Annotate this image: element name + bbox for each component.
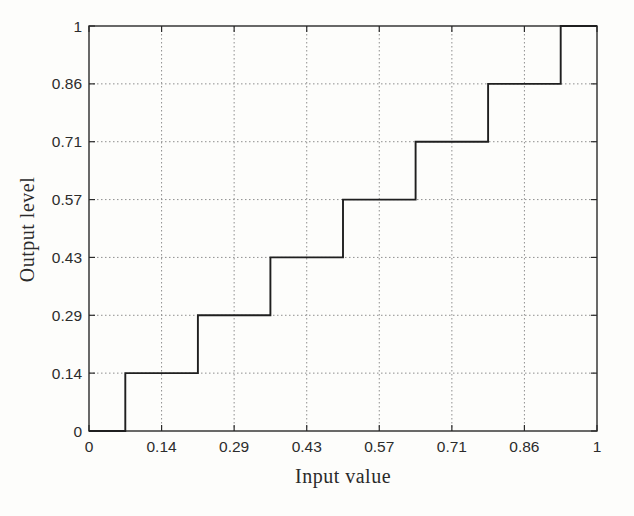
staircase-plot-canvas: 00.140.290.430.570.710.86100.140.290.430… [0, 0, 634, 516]
x-tick-label: 0.43 [292, 438, 322, 455]
y-tick-label: 0.86 [52, 75, 82, 92]
x-axis-label: Input value [89, 465, 597, 488]
x-tick-label: 0.29 [219, 438, 249, 455]
y-tick-label: 0.14 [52, 365, 83, 382]
y-axis-label: Output level [16, 27, 39, 432]
x-tick-label: 0.14 [147, 438, 178, 455]
x-tick-label: 0.57 [364, 438, 394, 455]
x-tick-label: 0.71 [437, 438, 467, 455]
y-tick-label: 0.43 [52, 249, 82, 266]
x-tick-label: 0.86 [509, 438, 539, 455]
y-tick-label: 0 [73, 423, 82, 440]
y-tick-label: 0.29 [52, 307, 82, 324]
y-tick-label: 1 [73, 18, 82, 35]
y-tick-label: 0.57 [52, 191, 82, 208]
quantizer-staircase-figure: 00.140.290.430.570.710.86100.140.290.430… [0, 0, 634, 516]
staircase-line [89, 26, 597, 431]
x-tick-label: 0 [85, 438, 94, 455]
x-tick-label: 1 [593, 438, 602, 455]
y-tick-label: 0.71 [52, 133, 82, 150]
